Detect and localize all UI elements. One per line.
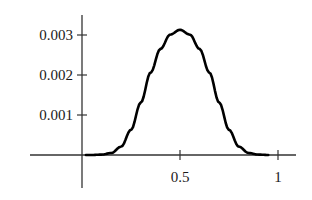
x-tick-label: 1 [274, 169, 282, 185]
y-tick-label: 0.002 [39, 67, 73, 83]
y-ticks: 0.0010.0020.003 [39, 27, 87, 123]
data-curve [86, 30, 268, 155]
chart: 0.51 0.0010.0020.003 [0, 0, 312, 200]
x-tick-label: 0.5 [171, 169, 190, 185]
y-tick-label: 0.003 [39, 27, 73, 43]
y-tick-label: 0.001 [39, 107, 73, 123]
